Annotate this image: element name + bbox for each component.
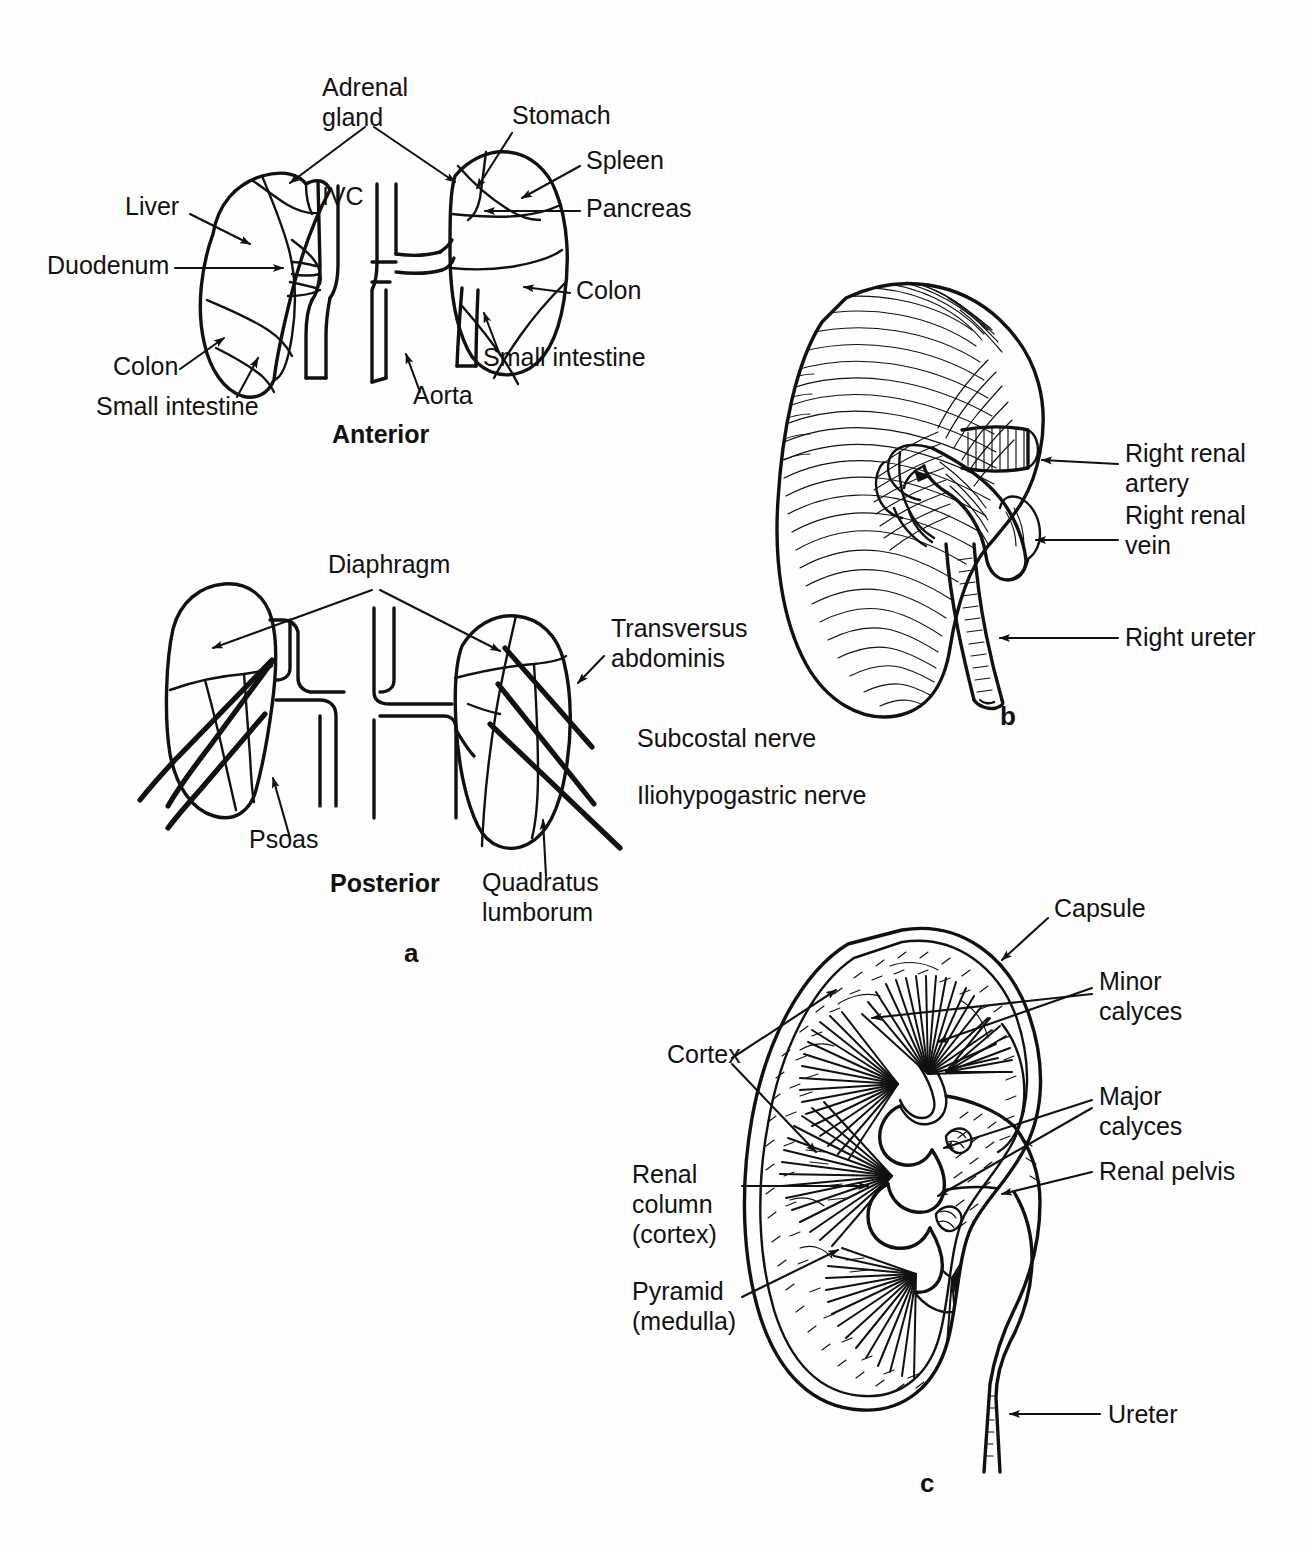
label-minor-calyces-line2: calyces xyxy=(1099,997,1182,1025)
panel-a-posterior-label-group: Diaphragm Transversus abdominis Subcosta… xyxy=(249,550,866,926)
label-right-renal-artery-line2: artery xyxy=(1125,469,1189,497)
label-renal-column-line2: column xyxy=(632,1190,713,1218)
panel-c-drawing xyxy=(744,928,1040,1472)
panel-a-posterior-drawing xyxy=(166,584,474,818)
label-subcostal-nerve: Subcostal nerve xyxy=(637,724,816,752)
label-adrenal-gland-line1: Adrenal xyxy=(322,73,408,101)
label-small-intestine-right: Small intestine xyxy=(483,343,646,371)
anatomy-illustration: Adrenal gland Stomach Spleen Pancreas Co… xyxy=(0,0,1312,1550)
label-pancreas: Pancreas xyxy=(586,194,692,222)
label-minor-calyces-line1: Minor xyxy=(1099,967,1162,995)
label-spleen: Spleen xyxy=(586,146,664,174)
label-transversus-abdominis-line2: abdominis xyxy=(611,644,725,672)
panel-b-hatching xyxy=(782,280,1014,708)
label-quadratus-lumborum-line1: Quadratus xyxy=(482,868,599,896)
label-colon-right: Colon xyxy=(576,276,641,304)
label-right-renal-artery-line1: Right renal xyxy=(1125,439,1246,467)
panel-mark-a: a xyxy=(404,938,419,968)
label-ureter: Ureter xyxy=(1108,1400,1177,1428)
label-right-ureter: Right ureter xyxy=(1125,623,1256,651)
panel-c-leaders xyxy=(732,918,1100,1414)
label-psoas: Psoas xyxy=(249,825,318,853)
label-liver: Liver xyxy=(125,192,179,220)
label-capsule: Capsule xyxy=(1054,894,1146,922)
panel-b-drawing xyxy=(777,280,1043,717)
panel-a-anterior-label-group: Adrenal gland Stomach Spleen Pancreas Co… xyxy=(47,73,692,448)
label-right-renal-vein-line1: Right renal xyxy=(1125,501,1246,529)
label-colon-left: Colon xyxy=(113,352,178,380)
label-small-intestine-left: Small intestine xyxy=(96,392,259,420)
panel-marks: a b c xyxy=(404,701,1016,1498)
label-ivc: IVC xyxy=(322,182,364,210)
label-iliohypogastric-nerve: Iliohypogastric nerve xyxy=(637,781,866,809)
label-pyramid-line1: Pyramid xyxy=(632,1277,724,1305)
view-label-posterior: Posterior xyxy=(330,869,440,897)
label-major-calyces-line1: Major xyxy=(1099,1082,1162,1110)
label-major-calyces-line2: calyces xyxy=(1099,1112,1182,1140)
label-stomach: Stomach xyxy=(512,101,611,129)
panel-mark-c: c xyxy=(920,1468,934,1498)
label-quadratus-lumborum-line2: lumborum xyxy=(482,898,593,926)
label-adrenal-gland-line2: gland xyxy=(322,103,383,131)
label-aorta: Aorta xyxy=(413,381,473,409)
view-label-anterior: Anterior xyxy=(332,420,430,448)
label-renal-column-line1: Renal xyxy=(632,1160,697,1188)
panel-c-label-group: Capsule Minor calyces Major calyces Rena… xyxy=(632,894,1235,1428)
label-cortex: Cortex xyxy=(667,1040,741,1068)
label-duodenum: Duodenum xyxy=(47,251,169,279)
figure-page: Adrenal gland Stomach Spleen Pancreas Co… xyxy=(0,0,1312,1550)
label-right-renal-vein-line2: vein xyxy=(1125,531,1171,559)
panel-c-interior xyxy=(766,952,1040,1390)
panel-mark-b: b xyxy=(1000,701,1016,731)
panel-b-label-group: Right renal artery Right renal vein Righ… xyxy=(1125,439,1256,651)
label-renal-pelvis: Renal pelvis xyxy=(1099,1157,1235,1185)
panel-a-posterior-right-kidney xyxy=(455,616,570,849)
panel-b-leaders xyxy=(1000,460,1118,638)
label-transversus-abdominis-line1: Transversus xyxy=(611,614,748,642)
label-diaphragm: Diaphragm xyxy=(328,550,450,578)
label-pyramid-line2: (medulla) xyxy=(632,1307,736,1335)
label-renal-column-line3: (cortex) xyxy=(632,1220,717,1248)
